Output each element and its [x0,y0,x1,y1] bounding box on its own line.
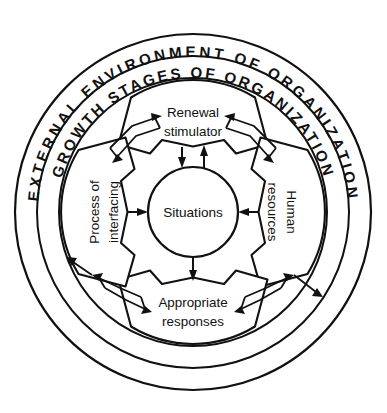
arrow-right-inbound [238,208,258,216]
sector-top[interactable]: Renewal stimulator [119,80,268,153]
sector-top-label-line2: stimulator [164,124,223,139]
arrow-top-inbound [178,147,186,168]
sector-right[interactable]: Human resources [252,138,325,287]
diagram-root: EXTERNAL ENVIRONMENT OF ORGANIZATION GRO… [0,0,387,413]
sector-bottom-label-line1: Appropriate [158,295,227,310]
hub-label: Situations [163,205,223,220]
arrow-left-inbound-head [137,208,148,216]
sector-left-label-line1: Process of [87,180,102,244]
arrow-top-outbound [200,145,208,168]
arrow-top-inbound-head [178,157,186,168]
hub[interactable]: Situations [148,167,238,257]
sector-right-label-line2: resources [265,183,280,242]
sector-top-label-line1: Renewal [167,105,219,120]
organizational-renewal-cycle-diagram: EXTERNAL ENVIRONMENT OF ORGANIZATION GRO… [0,0,387,413]
sector-bottom-label-line2: responses [162,314,224,329]
sector-left-label-line2: interfacing [106,181,121,243]
arrow-top-outbound-head [200,145,208,156]
arrow-left-inbound [128,208,148,216]
sector-right-label-line1: Human [284,190,299,233]
arrow-right-inbound-head [238,208,249,216]
